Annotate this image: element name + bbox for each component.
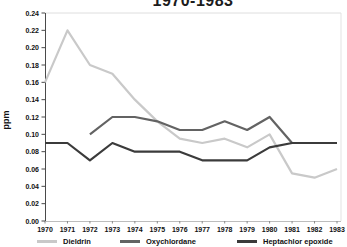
heptachlor-epoxide-line-swatch <box>237 240 257 243</box>
plot-area: 1970197119721973197419751976197719781979… <box>0 0 347 247</box>
svg-text:1972: 1972 <box>82 226 98 233</box>
svg-text:0.08: 0.08 <box>25 148 39 155</box>
svg-text:1975: 1975 <box>150 226 166 233</box>
legend-label: Heptachlor epoxide <box>263 237 333 246</box>
svg-text:0.06: 0.06 <box>25 166 39 173</box>
concentration-line-chart: 1970-1983 ppm 19701971197219731974197519… <box>0 0 347 247</box>
svg-text:0.02: 0.02 <box>25 200 39 207</box>
oxychlordane-line-swatch <box>120 240 140 243</box>
svg-text:1979: 1979 <box>239 226 255 233</box>
svg-text:0.24: 0.24 <box>25 10 39 17</box>
svg-text:0.16: 0.16 <box>25 79 39 86</box>
legend-item-oxychlordane: Oxychlordane <box>120 236 196 247</box>
legend-item-dieldrin: Dieldrin <box>37 236 91 247</box>
svg-text:0.12: 0.12 <box>25 114 39 121</box>
svg-text:1974: 1974 <box>127 226 143 233</box>
svg-text:1973: 1973 <box>105 226 121 233</box>
svg-text:0.10: 0.10 <box>25 131 39 138</box>
svg-text:1971: 1971 <box>60 226 76 233</box>
svg-text:1970: 1970 <box>37 226 53 233</box>
svg-text:1977: 1977 <box>194 226 210 233</box>
svg-text:0.00: 0.00 <box>25 218 39 225</box>
legend-label: Dieldrin <box>63 237 91 246</box>
svg-text:1980: 1980 <box>262 226 278 233</box>
svg-text:0.22: 0.22 <box>25 27 39 34</box>
dieldrin-line-swatch <box>37 240 57 243</box>
svg-text:1981: 1981 <box>284 226 300 233</box>
legend: Dieldrin Oxychlordane Heptachlor epoxide <box>0 236 347 247</box>
svg-text:1983: 1983 <box>329 226 345 233</box>
svg-text:0.18: 0.18 <box>25 62 39 69</box>
svg-text:1976: 1976 <box>172 226 188 233</box>
legend-item-heptachlor-epoxide: Heptachlor epoxide <box>237 236 333 247</box>
legend-label: Oxychlordane <box>146 237 196 246</box>
svg-text:1978: 1978 <box>217 226 233 233</box>
svg-text:0.04: 0.04 <box>25 183 39 190</box>
svg-text:1982: 1982 <box>307 226 323 233</box>
svg-text:0.14: 0.14 <box>25 96 39 103</box>
svg-text:0.20: 0.20 <box>25 44 39 51</box>
